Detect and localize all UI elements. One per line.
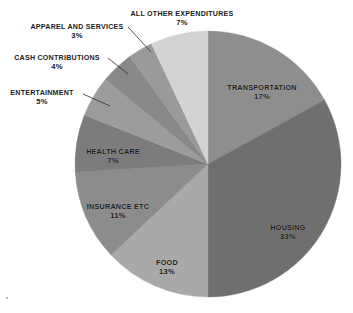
slice-label-name-food: Food <box>156 259 178 267</box>
slice-label-insurance-etc: Insurance etc11% <box>87 203 149 220</box>
slice-label-value-apparel-and-services: 3% <box>30 32 123 41</box>
slice-label-housing: Housing33% <box>270 224 305 241</box>
slice-label-name-transportation: Transportation <box>227 84 297 92</box>
slice-label-value-housing: 33% <box>270 233 305 242</box>
slice-label-name-housing: Housing <box>270 224 305 232</box>
slice-label-value-food: 13% <box>156 268 178 277</box>
slice-label-value-insurance-etc: 11% <box>87 212 149 221</box>
slice-label-health-care: Health care7% <box>86 148 140 165</box>
slice-label-entertainment: Entertainment5% <box>10 90 73 107</box>
slice-label-value-health-care: 7% <box>86 157 140 166</box>
slice-label-name-health-care: Health care <box>86 148 140 156</box>
slice-label-transportation: Transportation17% <box>227 84 297 101</box>
leader-line-apparel-and-services <box>128 27 151 52</box>
slice-label-all-other-expenditures: All other expenditures7% <box>130 11 233 28</box>
slice-label-name-insurance-etc: Insurance etc <box>87 203 149 211</box>
slice-label-apparel-and-services: Apparel and services3% <box>30 24 123 41</box>
pie-chart: Transportation17%Housing33%Food13%Insura… <box>0 0 353 313</box>
slice-label-value-transportation: 17% <box>227 93 297 102</box>
slice-label-value-cash-contributions: 4% <box>14 63 100 72</box>
corner-speck-artifact <box>6 297 8 299</box>
slice-label-cash-contributions: Cash contributions4% <box>14 55 100 72</box>
slice-label-value-all-other-expenditures: 7% <box>130 19 233 28</box>
slice-label-value-entertainment: 5% <box>10 98 73 107</box>
slice-label-food: Food13% <box>156 259 178 276</box>
